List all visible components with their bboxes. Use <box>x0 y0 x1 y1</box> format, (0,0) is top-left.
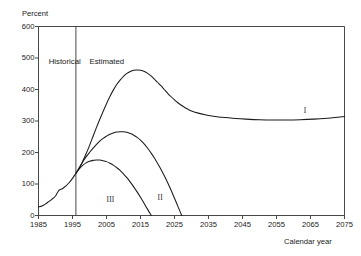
y-tick-label: 400 <box>9 86 35 94</box>
y-axis-title: Percent <box>22 10 48 18</box>
x-tick-label: 2075 <box>330 221 360 229</box>
y-tick-label: 300 <box>9 117 35 125</box>
series-label-III: III <box>107 196 115 203</box>
y-tick-label: 100 <box>9 180 35 188</box>
plot-frame <box>39 27 345 216</box>
x-tick-label: 2035 <box>194 221 224 229</box>
x-tick-label: 2005 <box>92 221 122 229</box>
axis-ticks <box>35 27 345 220</box>
x-tick-label: 1995 <box>58 221 88 229</box>
y-tick-label: 600 <box>9 23 35 31</box>
chart-svg <box>0 0 361 256</box>
y-tick-label: 200 <box>9 149 35 157</box>
series-label-I: I <box>304 107 307 114</box>
y-tick-label: 500 <box>9 54 35 62</box>
series-line-III <box>76 160 151 215</box>
x-tick-label: 1985 <box>24 221 54 229</box>
historical-region-label: Historical <box>49 58 81 66</box>
y-tick-label: 0 <box>9 212 35 220</box>
x-tick-label: 2015 <box>126 221 156 229</box>
series-lines <box>39 70 345 216</box>
estimated-region-label: Estimated <box>90 58 125 66</box>
x-tick-label: 2065 <box>296 221 326 229</box>
x-axis-title: Calendar year <box>284 238 332 246</box>
series-line-II <box>76 132 182 216</box>
x-tick-label: 2045 <box>228 221 258 229</box>
series-line-I <box>39 70 345 207</box>
x-tick-label: 2025 <box>160 221 190 229</box>
chart-container: Percent Calendar year 010020030040050060… <box>0 0 361 256</box>
series-label-II: II <box>158 194 163 201</box>
x-tick-label: 2055 <box>262 221 292 229</box>
